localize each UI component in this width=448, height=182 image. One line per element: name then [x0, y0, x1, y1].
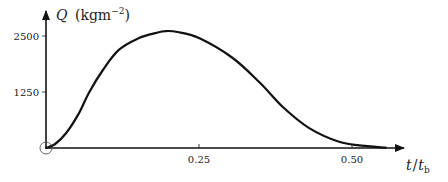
x-axis-label: t/tb	[406, 157, 430, 175]
y-axis-label: Q (kgm−2)	[56, 6, 130, 23]
chart-svg: 0.250.5012502500 Q (kgm−2) t/tb	[0, 0, 448, 182]
x-tick-label: 0.25	[188, 154, 210, 165]
ticks-group: 0.250.5012502500	[14, 31, 364, 166]
y-tick-label: 1250	[14, 87, 39, 98]
chart-container: 0.250.5012502500 Q (kgm−2) t/tb	[0, 0, 448, 182]
y-tick-label: 2500	[14, 31, 39, 42]
data-curve	[46, 31, 386, 148]
x-tick-label: 0.50	[341, 154, 363, 165]
